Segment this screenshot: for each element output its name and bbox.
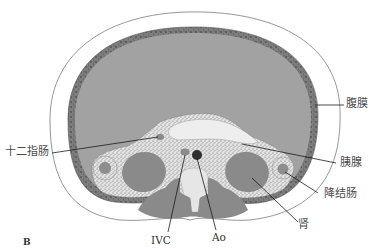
ivc-vessel: [181, 149, 190, 156]
label-kidney: 肾: [298, 219, 309, 231]
ascending-colon-lumen: [99, 162, 111, 174]
abdominal-cross-section-diagram: [0, 0, 375, 250]
label-peritoneum: 腹膜: [346, 98, 368, 110]
label-duodenum: 十二指肠: [5, 146, 49, 158]
panel-letter: B: [23, 237, 31, 247]
label-descending-colon: 降结肠: [324, 188, 357, 200]
label-ivc: IVC: [151, 234, 171, 246]
label-pancreas: 胰腺: [340, 157, 362, 169]
label-aorta: Ao: [212, 231, 226, 243]
